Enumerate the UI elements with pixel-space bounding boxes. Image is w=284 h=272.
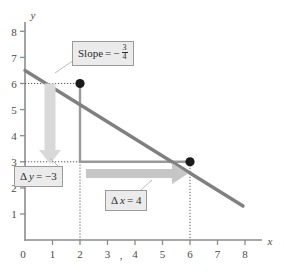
delta-symbol: Δ xyxy=(111,195,118,206)
y-tick-label: 7 xyxy=(11,52,17,64)
delta-y-variable: y xyxy=(29,171,34,182)
slope-minus-sign: − xyxy=(113,48,119,59)
delta-symbol: Δ xyxy=(20,171,27,182)
delta-y-callout: Δ y = −3 xyxy=(14,166,63,187)
slope-equals-sign: = xyxy=(105,48,111,59)
x-tick-label: 6 xyxy=(187,248,193,260)
x-tick-labels: 0 1 2 3 4 5 6 7 8 , xyxy=(20,248,248,261)
delta-x-arrow xyxy=(86,163,188,184)
y-tick-labels: 8 7 6 5 4 3 2 1 xyxy=(11,26,17,221)
y-tick-label: 4 xyxy=(11,130,17,142)
x-tick-label: 2 xyxy=(77,248,83,260)
x-tick-label: 3 xyxy=(105,248,111,260)
y-tick-label: 1 xyxy=(11,208,17,220)
x-tick-label: 5 xyxy=(160,248,166,260)
x-tick-label: 8 xyxy=(242,248,248,260)
y-tick-label: 5 xyxy=(11,104,17,116)
slope-fraction: 3 4 xyxy=(122,44,128,62)
delta-y-arrow xyxy=(39,84,61,165)
x-axis-label: x xyxy=(267,235,273,247)
delta-y-value-text: = −3 xyxy=(36,171,57,182)
slope-graph-figure: 8 7 6 5 4 3 2 1 0 1 2 3 4 5 6 7 8 , y x xyxy=(0,0,284,272)
x-tick-label: 1 xyxy=(50,248,56,260)
delta-x-variable: x xyxy=(120,195,125,206)
data-point-2-6 xyxy=(75,79,84,88)
dx-leader-line xyxy=(141,180,152,190)
x-tick-label: 4 xyxy=(132,248,138,260)
delta-x-callout: Δ x = 4 xyxy=(105,190,147,211)
x-tick-label: 7 xyxy=(215,248,221,260)
slope-denominator: 4 xyxy=(122,53,128,61)
y-axis-label: y xyxy=(30,9,36,21)
y-tick-label: 6 xyxy=(11,78,17,90)
x-tick-label: 0 xyxy=(20,248,26,260)
data-point-6-3 xyxy=(185,157,194,166)
y-tick-label: 8 xyxy=(11,26,17,38)
rise-run-triangle xyxy=(80,84,190,162)
delta-x-value-text: = 4 xyxy=(127,195,141,206)
plot-canvas: 8 7 6 5 4 3 2 1 0 1 2 3 4 5 6 7 8 , y x xyxy=(0,0,284,272)
x-axis-comma-artifact: , xyxy=(120,249,123,261)
slope-label-text: Slope xyxy=(78,48,103,59)
slope-callout: Slope = − 3 4 xyxy=(72,41,134,66)
data-points xyxy=(75,79,194,166)
